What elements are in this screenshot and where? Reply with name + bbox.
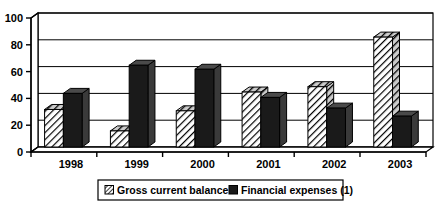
y-tick-label: 100	[5, 12, 23, 24]
bar-side-face	[148, 60, 155, 147]
bar-front-face	[195, 69, 214, 147]
legend-label-financial-expenses: Financial expenses (1)	[241, 184, 353, 196]
bar-front-face	[308, 87, 327, 147]
bar-side-face	[82, 88, 89, 147]
bar-group	[195, 64, 221, 147]
y-tick-label: 0	[17, 146, 23, 158]
bar-chart-figure: 0 20 40 60 80 100 1998199920002001200220…	[0, 0, 441, 210]
bar-group	[63, 88, 89, 147]
bar-front-face	[393, 116, 412, 147]
x-tick-label: 2000	[190, 158, 214, 170]
bar-front-face	[176, 111, 195, 147]
x-tick-label: 1999	[125, 158, 149, 170]
axis-floor	[31, 147, 433, 152]
y-tick-label: 40	[11, 92, 23, 104]
hatched-swatch-icon	[105, 186, 114, 195]
chart-legend: Gross current balance Financial expenses…	[98, 180, 353, 200]
bar-front-face	[129, 65, 148, 147]
solid-swatch-icon	[229, 186, 238, 195]
bar-group	[393, 111, 419, 147]
bar-side-face	[280, 92, 287, 147]
bar-front-face	[45, 109, 64, 147]
y-tick-label: 20	[11, 119, 23, 131]
bar-front-face	[110, 131, 129, 147]
chart-canvas: 0 20 40 60 80 100 1998199920002001200220…	[0, 0, 441, 210]
bar-side-face	[411, 111, 418, 147]
bar-group	[129, 60, 155, 147]
axis-depth-wall	[31, 13, 38, 152]
legend-label-gross-current-balance: Gross current balance	[117, 184, 229, 196]
bar-side-face	[214, 64, 221, 147]
bar-group	[327, 103, 353, 147]
x-tick-label: 1998	[59, 158, 83, 170]
x-tick-label: 2003	[388, 158, 412, 170]
y-tick-label: 80	[11, 39, 23, 51]
x-tick-label: 2001	[256, 158, 280, 170]
bar-front-face	[242, 92, 261, 147]
bar-front-face	[261, 97, 280, 147]
x-tick-label: 2002	[322, 158, 346, 170]
bar-front-face	[374, 37, 393, 147]
bar-front-face	[327, 108, 346, 147]
bar-front-face	[63, 93, 82, 147]
y-tick-label: 60	[11, 66, 23, 78]
bar-group	[261, 92, 287, 147]
bar-side-face	[345, 103, 352, 147]
